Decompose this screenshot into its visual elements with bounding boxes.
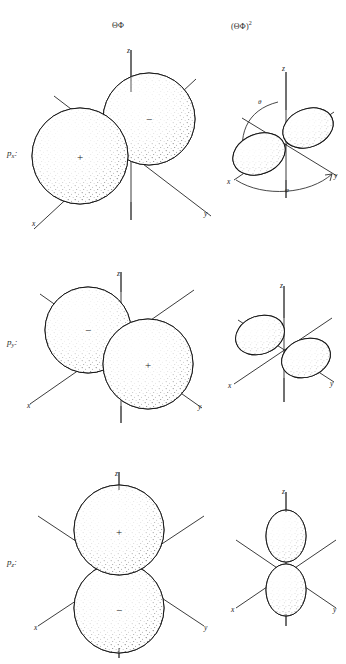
angle-label-theta: θ xyxy=(258,98,262,106)
sign-minus-pz: − xyxy=(116,604,122,616)
sign-minus-py: − xyxy=(85,324,91,336)
column-header-angular-function-squared-label: (ΘΦ) xyxy=(231,22,249,31)
lobe-top xyxy=(262,506,312,568)
row-label-pz-suffix: : xyxy=(14,557,17,567)
row-label-px-base: p xyxy=(7,148,12,158)
diagram-py-squared: x y z xyxy=(224,280,339,408)
lobe-bottom xyxy=(262,560,312,622)
axis-label-x: x xyxy=(227,381,232,390)
axis-label-x: x xyxy=(26,401,31,410)
axis-label-y: y xyxy=(197,402,202,411)
sign-minus-px: − xyxy=(146,113,152,125)
axis-label-y: y xyxy=(329,379,334,388)
row-label-px-sub: x xyxy=(12,152,15,159)
figure-page: ΘΦ (ΘΦ)2 px: py: pz: xyxy=(0,0,346,664)
axis-label-x: x xyxy=(31,219,36,228)
axis-label-x: x xyxy=(33,623,38,632)
axis-label-z: z xyxy=(114,469,118,478)
diagram-px-squared: θ φ xyxy=(216,58,342,203)
axis-label-z: z xyxy=(281,487,285,496)
row-label-py-sub: y xyxy=(12,341,15,348)
sign-plus-py: + xyxy=(145,359,151,371)
axis-label-z: z xyxy=(281,64,285,73)
axis-label-y: y xyxy=(203,209,208,218)
axis-label-z: z xyxy=(126,46,130,55)
column-header-angular-function-squared: (ΘΦ)2 xyxy=(231,20,252,31)
lobe-plus: + xyxy=(98,314,202,418)
axis-label-y: y xyxy=(333,171,338,180)
axis-label-x: x xyxy=(230,605,235,614)
diagram-py-wavefunction: − + x y z xyxy=(18,268,214,428)
diagram-pz-squared: x y z xyxy=(228,484,342,632)
sign-plus-px: + xyxy=(77,151,83,163)
diagram-pz-wavefunction: − + x y z xyxy=(26,468,212,660)
column-header-angular-function-label: ΘΦ xyxy=(112,21,124,30)
row-label-px: px: xyxy=(7,148,17,158)
diagram-px-wavefunction: − + x y z xyxy=(18,44,214,230)
lobe-right xyxy=(276,332,336,386)
axis-label-z: z xyxy=(116,269,120,278)
lobe-plus: + xyxy=(26,102,136,212)
axis-label-x: x xyxy=(226,177,231,186)
row-label-pz: pz: xyxy=(7,557,17,567)
row-label-py-suffix: : xyxy=(14,337,17,347)
row-label-px-suffix: : xyxy=(14,148,17,158)
column-header-exponent: 2 xyxy=(249,20,252,26)
row-label-py: py: xyxy=(7,337,17,347)
axis-label-y: y xyxy=(332,605,337,614)
column-header-angular-function: ΘΦ xyxy=(112,21,124,30)
row-label-pz-base: p xyxy=(7,557,12,567)
row-label-py-base: p xyxy=(7,337,12,347)
lobe-front xyxy=(226,125,292,184)
sign-plus-pz: + xyxy=(116,526,122,538)
axis-label-y: y xyxy=(203,623,208,632)
axis-label-z: z xyxy=(279,281,283,290)
row-label-pz-sub: z xyxy=(12,561,15,568)
lobe-plus: + xyxy=(70,482,170,582)
